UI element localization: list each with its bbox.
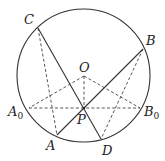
segment-ob0 xyxy=(84,76,140,108)
chord-ba xyxy=(57,49,143,135)
label-c: C xyxy=(24,12,34,27)
label-a0-main: A xyxy=(7,104,17,119)
label-a0: A0 xyxy=(7,104,23,121)
label-a0-sub: 0 xyxy=(17,111,23,121)
point-p-dot xyxy=(83,107,85,109)
label-p: P xyxy=(76,112,86,127)
segment-bd xyxy=(101,49,143,139)
label-b0: B0 xyxy=(143,104,160,121)
label-b0-main: B xyxy=(143,104,154,119)
label-b: B xyxy=(145,33,156,48)
label-d: D xyxy=(101,143,113,158)
label-o: O xyxy=(79,60,90,75)
label-b0-sub: 0 xyxy=(154,111,160,121)
segment-oa0 xyxy=(29,76,84,108)
geometry-diagram: C B O A0 B0 P A D xyxy=(0,0,165,161)
label-a: A xyxy=(45,138,55,153)
